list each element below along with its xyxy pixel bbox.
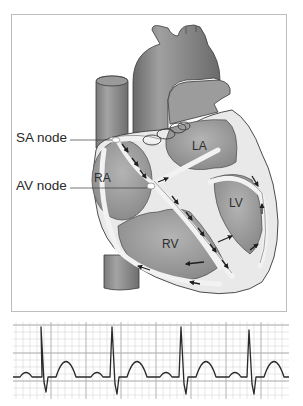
av-node-label: AV node bbox=[16, 179, 67, 193]
chamber-label-rv: RV bbox=[162, 238, 178, 250]
heart-illustration bbox=[0, 0, 303, 320]
ecg-trace bbox=[13, 327, 289, 394]
chamber-label-lv: LV bbox=[229, 197, 243, 209]
av-node bbox=[147, 183, 155, 189]
sa-node bbox=[112, 138, 120, 143]
chamber-label-la: LA bbox=[192, 140, 207, 152]
ecg-strip bbox=[13, 322, 289, 399]
sa-node-label: SA node bbox=[16, 131, 67, 145]
chamber-label-ra: RA bbox=[94, 172, 111, 184]
